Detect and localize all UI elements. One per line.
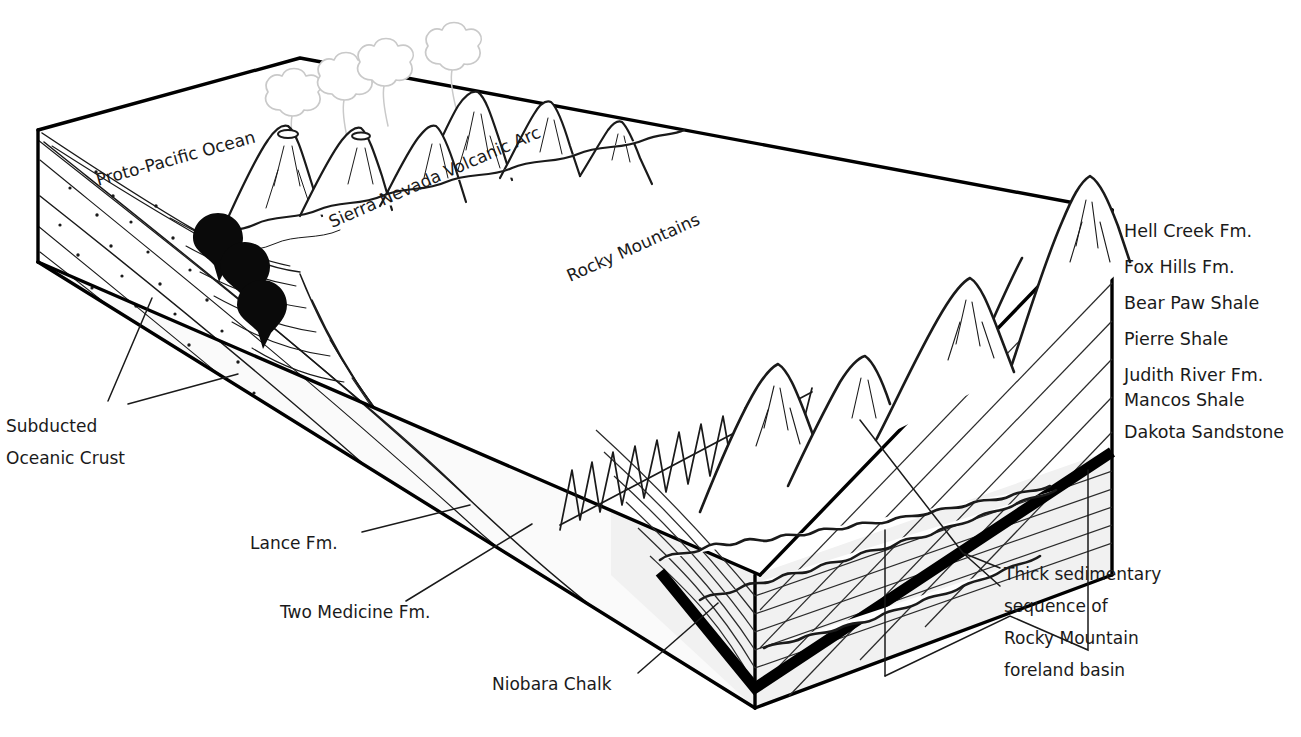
strat-label-mancos-shale: Mancos Shale <box>1124 390 1244 410</box>
callout-lance-fm: Lance Fm. <box>250 533 338 553</box>
callout-foreland-line1: Thick sedimentary <box>1003 564 1161 584</box>
callout-niobara-chalk: Niobara Chalk <box>492 674 612 694</box>
stratigraphy-labels: Hell Creek Fm. Fox Hills Fm. Bear Paw Sh… <box>1123 221 1284 442</box>
strat-label-hell-creek: Hell Creek Fm. <box>1124 221 1252 241</box>
callout-subducted-crust-line1: Subducted <box>6 416 97 436</box>
strat-label-dakota-sandstone: Dakota Sandstone <box>1124 422 1284 442</box>
strat-label-judith-river: Judith River Fm. <box>1123 365 1263 385</box>
strat-label-fox-hills: Fox Hills Fm. <box>1124 257 1235 277</box>
strat-label-bear-paw-shale: Bear Paw Shale <box>1124 293 1259 313</box>
strat-label-pierre-shale: Pierre Shale <box>1124 329 1228 349</box>
callout-foreland-line3: Rocky Mountain <box>1004 628 1139 648</box>
callout-subducted-crust-line2: Oceanic Crust <box>6 448 125 468</box>
callout-foreland-line2: sequence of <box>1004 596 1109 616</box>
callout-foreland-line4: foreland basin <box>1004 660 1125 680</box>
callout-two-medicine-fm: Two Medicine Fm. <box>279 602 430 622</box>
diagram-canvas: Proto-Pacific Ocean Sierra Nevada Volcan… <box>0 0 1301 737</box>
block-diagram-svg: Proto-Pacific Ocean Sierra Nevada Volcan… <box>0 0 1301 737</box>
